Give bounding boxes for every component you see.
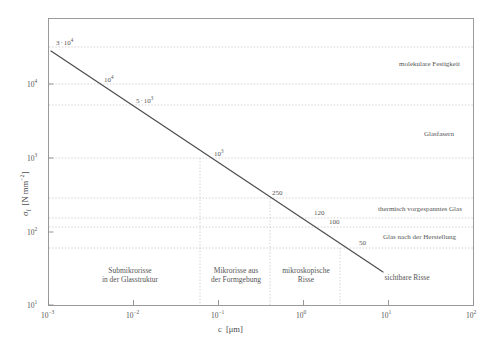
point-label-1000: 103 bbox=[214, 149, 224, 158]
x-tick-marks bbox=[49, 300, 474, 305]
y-tick-label-10000: 104 bbox=[27, 78, 37, 89]
band-label-submikrorisse: Submikrorisse in der Glasstruktur bbox=[75, 267, 185, 284]
region-label-molekulare-festigkeit: molekulare Festigkeit bbox=[399, 60, 460, 68]
x-tick-label-4: 101 bbox=[381, 309, 391, 320]
point-label-30000: 3·104 bbox=[56, 38, 73, 47]
y-tick-label-10: 101 bbox=[27, 299, 37, 310]
x-tick-label-0: 10−3 bbox=[41, 309, 54, 320]
y-axis-title: σf [N mm−2] bbox=[19, 172, 32, 216]
point-label-5000: 5·103 bbox=[136, 96, 153, 105]
data-line-strength bbox=[51, 51, 383, 272]
band-label-line2: Risse bbox=[272, 276, 340, 285]
region-label-thermisch-vorgespanntes-glas: thermisch vorgespanntes Glas bbox=[378, 205, 462, 213]
chart-figure: 104 103 102 101 10−3 10−2 10−1 100 101 1… bbox=[0, 0, 486, 348]
point-label-10000: 104 bbox=[104, 75, 114, 84]
y-tick-marks bbox=[49, 84, 54, 305]
band-label-line2: in der Glasstruktur bbox=[75, 276, 185, 285]
point-label-250: 250 bbox=[272, 189, 283, 197]
x-tick-label-3: 100 bbox=[296, 309, 306, 320]
x-tick-label-5: 102 bbox=[466, 309, 476, 320]
region-label-glasfasern: Glasfasern bbox=[424, 130, 454, 138]
x-tick-label-2: 10−1 bbox=[211, 309, 224, 320]
band-label-mikroskopische-risse: mikroskopische Risse bbox=[272, 267, 340, 284]
y-tick-label-1000: 103 bbox=[27, 152, 37, 163]
y-axis-title-wrap: σf [N mm−2] bbox=[6, 128, 20, 218]
band-label-line2: der Formgebung bbox=[202, 276, 270, 285]
x-tick-label-1: 10−2 bbox=[126, 309, 139, 320]
band-label-line1: sichtbare Risse bbox=[342, 274, 472, 283]
point-label-50: 50 bbox=[359, 239, 366, 247]
point-label-120: 120 bbox=[314, 209, 325, 217]
region-label-glas-nach-der-herstellung: Glas nach der Herstellung bbox=[383, 233, 456, 241]
band-label-mikrorisse: Mikrorisse aus der Formgebung bbox=[202, 267, 270, 284]
band-label-sichtbare-risse: sichtbare Risse bbox=[342, 274, 472, 283]
x-axis-title: c [μm] bbox=[218, 325, 243, 335]
point-label-100: 100 bbox=[329, 218, 340, 226]
y-tick-label-100: 102 bbox=[27, 226, 37, 237]
plot-canvas bbox=[0, 0, 486, 348]
